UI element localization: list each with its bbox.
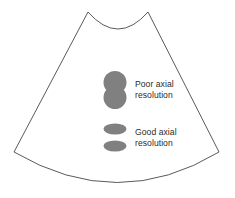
annotation-poor-axial-resolution: Poor axial resolution [98, 68, 174, 112]
blob-lower-circle [104, 86, 127, 109]
separated-ellipses-icon [98, 116, 132, 160]
ultrasound-diagram-figure: Poor axial resolution Good axial resolut… [0, 0, 235, 198]
marker-good-axial-resolution [98, 116, 132, 160]
ellipse-lower [104, 140, 127, 151]
annotation-good-label: Good axial resolution [135, 127, 177, 149]
marker-poor-axial-resolution [98, 68, 132, 112]
ellipse-upper [104, 123, 127, 134]
overlapping-circles-icon [98, 68, 132, 112]
annotation-good-axial-resolution: Good axial resolution [98, 116, 177, 160]
annotation-poor-label: Poor axial resolution [135, 79, 174, 101]
